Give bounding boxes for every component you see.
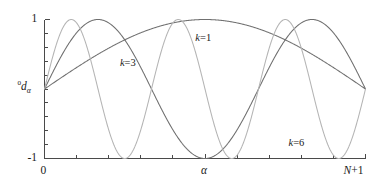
x-axis-tick-label-right: N+1 xyxy=(344,165,364,177)
sine-eigenvector-plot xyxy=(0,0,378,187)
y-axis-title: 0dα xyxy=(18,80,31,95)
k-value: =3 xyxy=(125,57,136,68)
k-value: =6 xyxy=(293,137,304,148)
series-label-k6: k=6 xyxy=(288,138,304,149)
y-axis-tick-label-top: 1 xyxy=(32,13,38,25)
x-axis-ticks xyxy=(45,154,366,159)
x-axis-tick-label-left: 0 xyxy=(41,165,47,177)
x-axis-right-suffix: +1 xyxy=(351,164,363,176)
x-axis-tick-label-mid: α xyxy=(201,165,207,177)
y-axis-tick-label-bottom: -1 xyxy=(28,152,38,164)
k-value: =1 xyxy=(200,32,211,43)
series-label-k3: k=3 xyxy=(120,58,136,69)
figure-container: 1 -1 0dα 0 α N+1 k=1 k=3 k=6 xyxy=(0,0,378,187)
y-axis-subscript: α xyxy=(27,86,31,95)
curve-k1 xyxy=(45,20,366,90)
series-label-k1: k=1 xyxy=(195,33,211,44)
